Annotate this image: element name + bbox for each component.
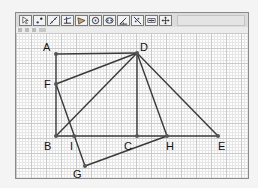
line-tool-button[interactable] xyxy=(47,15,60,26)
graphics-view[interactable]: ADFBICHEG xyxy=(16,33,248,178)
angle-tool-button[interactable] xyxy=(117,15,130,26)
move-tool-button[interactable] xyxy=(19,15,32,26)
line-icon xyxy=(49,16,58,25)
circle-icon xyxy=(91,16,100,25)
conic-icon xyxy=(105,16,114,25)
ellipse-tool-button[interactable] xyxy=(103,15,116,26)
segment-DH[interactable] xyxy=(137,53,167,136)
segment-FG[interactable] xyxy=(56,84,85,166)
geometry-drawing: ADFBICHEG xyxy=(16,33,248,178)
reflect-icon xyxy=(133,16,142,25)
point-I[interactable] xyxy=(72,134,76,138)
point-icon xyxy=(35,16,44,25)
point-C[interactable] xyxy=(135,134,139,138)
segment-DB[interactable] xyxy=(56,53,137,136)
grid-toggle-button[interactable] xyxy=(25,28,29,32)
axes-toggle-button[interactable] xyxy=(32,28,36,32)
angle-icon xyxy=(119,16,128,25)
point-style-button[interactable] xyxy=(18,28,22,32)
point-label-A: A xyxy=(43,41,51,53)
arrow-pointer-icon xyxy=(21,16,30,25)
circle-tool-button[interactable] xyxy=(89,15,102,26)
point-label-G: G xyxy=(73,168,82,178)
point-tool-button[interactable] xyxy=(33,15,46,26)
point-D[interactable] xyxy=(135,51,139,55)
segment-DF[interactable] xyxy=(56,53,137,84)
toolbar-empty-area xyxy=(177,15,245,26)
point-F[interactable] xyxy=(54,82,58,86)
point-label-F: F xyxy=(44,78,51,90)
perpendicular-icon xyxy=(63,16,72,25)
point-label-H: H xyxy=(166,140,174,152)
point-A[interactable] xyxy=(54,52,58,56)
point-label-B: B xyxy=(44,140,51,152)
point-label-C: C xyxy=(124,140,132,152)
point-G[interactable] xyxy=(83,164,87,168)
toolbar xyxy=(16,13,248,28)
polygon-icon xyxy=(77,16,86,25)
perpendicular-tool-button[interactable] xyxy=(61,15,74,26)
point-H[interactable] xyxy=(165,134,169,138)
move-view-tool-button[interactable] xyxy=(159,15,172,26)
point-label-D: D xyxy=(140,41,148,53)
reflect-tool-button[interactable] xyxy=(131,15,144,26)
move-view-icon xyxy=(161,16,170,25)
point-label-I: I xyxy=(70,140,73,152)
point-E[interactable] xyxy=(216,134,220,138)
slider-icon xyxy=(147,16,156,25)
segment-DE[interactable] xyxy=(137,53,218,136)
point-label-E: E xyxy=(218,140,225,152)
slider-tool-button[interactable] xyxy=(145,15,158,26)
segment-AD[interactable] xyxy=(56,53,137,54)
geogebra-window: ADFBICHEG xyxy=(15,12,249,179)
polygon-tool-button[interactable] xyxy=(75,15,88,26)
point-B[interactable] xyxy=(54,134,58,138)
color-dropdown-button[interactable] xyxy=(39,28,46,32)
